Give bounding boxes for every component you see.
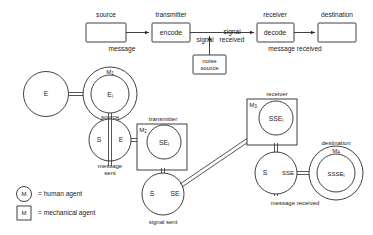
legend-human-agent-row: M = human agent bbox=[17, 187, 83, 202]
legend-mechanical-agent-symbol: M bbox=[22, 210, 27, 216]
node-message-sent: S E message sent bbox=[89, 119, 131, 176]
node-message-received-left: S bbox=[263, 169, 268, 176]
shannon-signal-label: signal bbox=[196, 36, 214, 44]
node-m2-caption: transmitter bbox=[149, 116, 177, 122]
shannon-message-received-label: message received bbox=[268, 45, 322, 53]
node-m1-source: M1 Ei source bbox=[83, 67, 137, 121]
node-e-plain-label: E bbox=[44, 90, 49, 97]
shannon-receiver-label: receiver bbox=[263, 11, 287, 18]
communication-model-diagram: source message transmitter encode signal… bbox=[0, 0, 373, 235]
noise-source-line1: noise bbox=[202, 58, 217, 64]
node-message-sent-right: E bbox=[119, 136, 124, 143]
shannon-transmitter-label: transmitter bbox=[155, 11, 187, 18]
shannon-destination-label: destination bbox=[321, 11, 353, 18]
shannon-receiver-box: receiver decode bbox=[257, 11, 294, 42]
shannon-message-label: message bbox=[109, 45, 136, 53]
node-signal-sent-right: SE bbox=[170, 190, 180, 197]
legend-human-agent-text: = human agent bbox=[38, 190, 82, 198]
node-signal-sent-caption: signal sent bbox=[149, 219, 178, 225]
node-m2-transmitter: M2 SEi transmitter bbox=[137, 116, 187, 170]
node-m3-receiver: M3 SSEi receiver bbox=[247, 91, 297, 145]
legend-mechanical-agent-text: = mechanical agent bbox=[38, 209, 96, 217]
shannon-source-box: source bbox=[86, 11, 126, 42]
signal-received-line1: signal bbox=[223, 28, 241, 36]
node-signal-sent-left: S bbox=[150, 190, 155, 197]
shannon-encode-label: encode bbox=[160, 29, 183, 36]
bottom-agent-model: E M1 Ei source bbox=[24, 67, 364, 225]
shannon-destination-box: destination bbox=[318, 11, 356, 42]
noise-source-line2: source bbox=[200, 65, 219, 71]
node-m4-caption: destination bbox=[321, 140, 350, 146]
signal-received-line2: received bbox=[220, 36, 245, 43]
shannon-transmitter-box: transmitter encode bbox=[152, 11, 190, 42]
node-m4-destination: M4 SSSEi destination bbox=[309, 140, 363, 200]
diagram-canvas: source message transmitter encode signal… bbox=[0, 0, 373, 235]
node-signal-sent: S SE signal sent bbox=[142, 173, 184, 225]
node-e-plain: E bbox=[24, 72, 69, 117]
node-message-sent-caption-line1: message bbox=[98, 163, 123, 169]
node-message-received-right: SSE bbox=[282, 170, 294, 176]
shannon-source-label: source bbox=[96, 11, 116, 18]
node-message-sent-caption-line2: sent bbox=[104, 170, 116, 176]
node-m3-caption: receiver bbox=[266, 91, 287, 97]
legend-human-agent-symbol: M bbox=[22, 191, 27, 197]
legend-mechanical-agent-row: M = mechanical agent bbox=[17, 206, 96, 220]
node-message-received-caption: message received bbox=[271, 200, 320, 206]
shannon-decode-label: decode bbox=[264, 29, 287, 36]
node-message-sent-left: S bbox=[97, 136, 102, 143]
top-shannon-model: source message transmitter encode signal… bbox=[86, 11, 356, 74]
legend: M = human agent M = mechanical agent bbox=[17, 187, 96, 221]
